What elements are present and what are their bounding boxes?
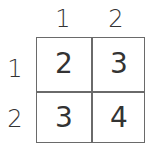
cell-r2-c2: 4 [92,104,146,132]
cell-r1-c1: 2 [37,50,91,78]
row-header-2: 2 [0,107,30,131]
col-header-1: 1 [48,7,78,31]
cell-r1-c2: 3 [92,50,146,78]
grid-divider-horizontal [37,91,144,93]
row-header-1: 1 [0,57,30,81]
col-header-2: 2 [101,7,131,31]
addition-grid: 2 3 3 4 [36,37,145,143]
cell-r2-c1: 3 [37,104,91,132]
